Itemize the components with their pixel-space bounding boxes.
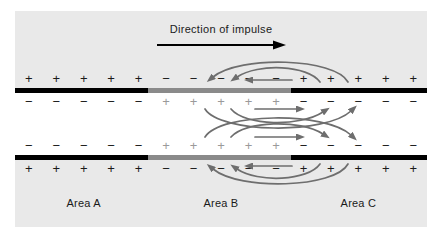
charge-symbol: − [97,139,124,153]
charge-row-extracellular-top: + + + + + − − − − − + + + + + [15,72,427,86]
charge-symbol: − [207,162,234,176]
charge-symbol: − [42,139,69,153]
charge-symbol: − [180,72,207,86]
charge-symbol: − [400,95,427,109]
charge-row-intracellular-top: − − − − − + + + + + − − − − − [15,95,427,109]
charge-symbol: + [97,162,124,176]
membrane-top-segment-area-b [148,88,291,93]
membrane-bottom-segment-area-b [148,155,291,160]
charge-symbol: − [235,162,262,176]
charge-symbol: + [262,95,289,109]
charge-symbol: + [125,72,152,86]
charge-symbol: − [262,72,289,86]
charge-symbol: + [372,162,399,176]
charge-symbol: − [290,139,317,153]
charge-symbol: − [372,139,399,153]
charge-symbol: − [97,95,124,109]
area-label-row: Area A Area B Area C [15,197,427,209]
membrane-bottom-segment-area-c [291,155,427,160]
impulse-direction-header: Direction of impulse [15,23,427,51]
membrane-bottom [15,155,427,160]
impulse-direction-arrow-icon [155,39,287,51]
charge-symbol: + [400,162,427,176]
charge-symbol: − [345,139,372,153]
charge-symbol: + [372,72,399,86]
charge-symbol: + [235,139,262,153]
charge-symbol: + [290,162,317,176]
charge-symbol: + [152,139,179,153]
charge-symbol: + [42,72,69,86]
charge-symbol: + [290,72,317,86]
charge-symbol: + [317,162,344,176]
charge-symbol: + [235,95,262,109]
charge-symbol: − [235,72,262,86]
charge-symbol: + [180,95,207,109]
charge-symbol: + [345,162,372,176]
charge-symbol: − [400,139,427,153]
area-label-c: Area C [290,197,427,209]
charge-symbol: − [180,162,207,176]
impulse-arrow-container [15,39,427,51]
charge-symbol: + [125,162,152,176]
charge-row-extracellular-bottom: + + + + + − − − − − + + + + + [15,162,427,176]
membrane-top-segment-area-a [15,88,148,93]
charge-symbol: + [180,139,207,153]
charge-symbol: + [70,72,97,86]
membrane-bottom-segment-area-a [15,155,148,160]
charge-symbol: + [152,95,179,109]
charge-symbol: − [42,95,69,109]
charge-symbol: − [152,162,179,176]
charge-symbol: − [15,95,42,109]
charge-symbol: + [42,162,69,176]
charge-symbol: − [70,139,97,153]
charge-symbol: − [345,95,372,109]
charge-symbol: − [70,95,97,109]
area-label-a: Area A [15,197,152,209]
charge-symbol: + [317,72,344,86]
charge-symbol: − [125,95,152,109]
charge-symbol: + [15,162,42,176]
charge-symbol: − [152,72,179,86]
charge-symbol: − [262,162,289,176]
area-label-b: Area B [152,197,289,209]
membrane-top-segment-area-c [291,88,427,93]
charge-symbol: + [97,72,124,86]
charge-symbol: − [317,95,344,109]
charge-symbol: + [15,72,42,86]
charge-symbol: − [15,139,42,153]
charge-symbol: + [207,95,234,109]
charge-symbol: + [70,162,97,176]
charge-row-intracellular-bottom: − − − − − + + + + + − − − − − [15,139,427,153]
charge-symbol: + [345,72,372,86]
charge-symbol: + [207,139,234,153]
charge-symbol: − [317,139,344,153]
charge-symbol: − [125,139,152,153]
charge-symbol: − [207,72,234,86]
impulse-direction-label: Direction of impulse [15,23,427,35]
membrane-top [15,88,427,93]
charge-symbol: − [290,95,317,109]
nerve-impulse-diagram: Direction of impulse + + + + + − − − − −… [15,11,427,227]
charge-symbol: + [400,72,427,86]
charge-symbol: + [262,139,289,153]
charge-symbol: − [372,95,399,109]
